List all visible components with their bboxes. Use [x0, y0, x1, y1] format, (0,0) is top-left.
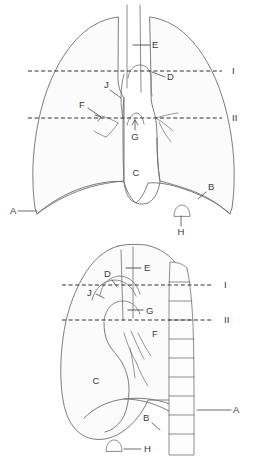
label-lateral-F: F — [152, 328, 158, 339]
label-lateral-H: H — [144, 443, 151, 454]
label-lateral-G: G — [146, 305, 153, 316]
thoracic-vertebral-column — [169, 262, 194, 455]
label-lateral-E: E — [144, 262, 150, 273]
label-frontal-level-II: II — [232, 112, 237, 123]
gastric-air-bubble — [174, 205, 190, 216]
label-lateral-D: D — [104, 268, 111, 279]
label-lateral-C: C — [93, 375, 100, 386]
lateral-chest-view: A B C D E F G H J I II — [61, 244, 240, 455]
frontal-chest-view: A B C D E F G H J I II — [10, 5, 237, 237]
trachea — [127, 5, 141, 92]
lung-field-left — [33, 17, 124, 214]
label-lateral-J: J — [87, 287, 92, 298]
label-lateral-A: A — [233, 404, 240, 415]
pulmonary-trunk — [127, 113, 144, 125]
label-frontal-G: G — [131, 131, 138, 142]
gastric-air-bubble-lateral — [106, 440, 122, 451]
label-frontal-C: C — [133, 167, 140, 178]
lung-field-right — [150, 17, 234, 214]
label-lateral-level-I: I — [224, 279, 227, 290]
leader-B-lateral — [152, 423, 160, 430]
label-frontal-B: B — [208, 181, 214, 192]
figure-root: A B C D E F G H J I II — [0, 0, 263, 472]
label-frontal-A: A — [10, 205, 17, 216]
label-lateral-B: B — [143, 412, 149, 423]
label-frontal-level-I: I — [232, 65, 235, 76]
label-frontal-F: F — [79, 99, 85, 110]
aortic-arch — [128, 65, 152, 96]
label-frontal-E: E — [152, 39, 158, 50]
label-lateral-level-II: II — [224, 314, 229, 325]
label-frontal-J: J — [104, 79, 109, 90]
label-frontal-D: D — [167, 71, 174, 82]
chest-anatomy-figure: A B C D E F G H J I II — [0, 0, 263, 472]
label-frontal-H: H — [178, 226, 185, 237]
